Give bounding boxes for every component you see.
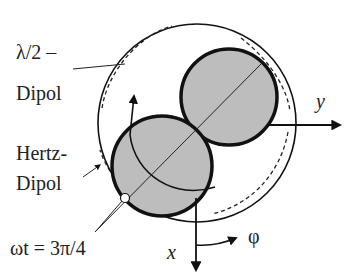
halfwave-dipole-label-line2: Dipol	[16, 82, 62, 105]
y-axis-label: y	[314, 90, 325, 113]
phi-direction-arrow	[196, 238, 236, 245]
hertz-dipole-label-line1: Hertz-	[16, 142, 67, 164]
radiation-pattern-diagram: λ/2 – Dipol Hertz- Dipol ωt = 3π/4 x y φ	[0, 0, 355, 279]
phase-point-marker	[121, 194, 130, 203]
halfwave-leader-line	[73, 64, 125, 69]
phi-label: φ	[248, 225, 260, 248]
x-axis-label: x	[166, 241, 176, 263]
phase-leader-line	[96, 201, 122, 231]
hertz-leader-line	[83, 165, 100, 177]
phase-label: ωt = 3π/4	[10, 237, 86, 259]
hertz-dipole-label-line2: Dipol	[16, 172, 62, 195]
halfwave-dipole-label-line1: λ/2 –	[16, 41, 57, 63]
